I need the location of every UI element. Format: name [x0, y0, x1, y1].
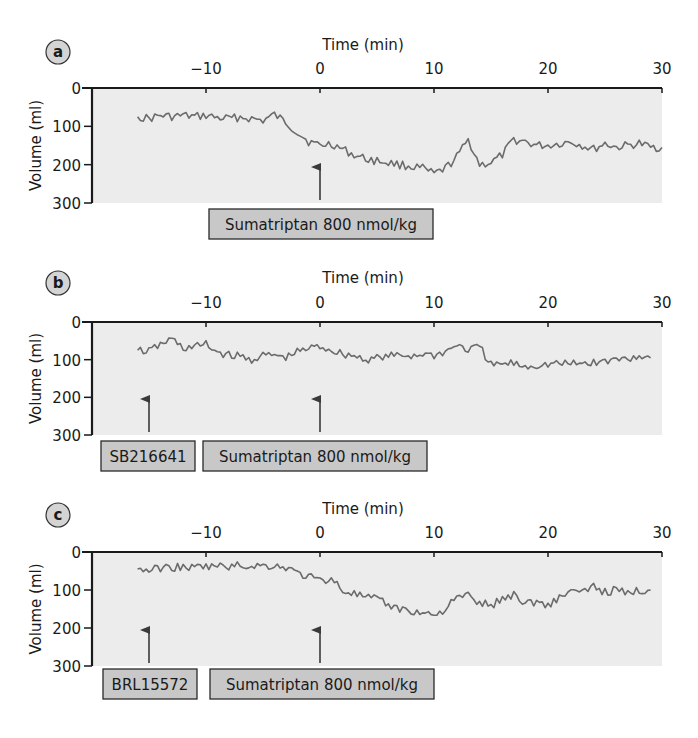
- panel-label: a: [53, 43, 63, 61]
- panel-b: bTime (min)−1001020300100200300Volume (m…: [27, 269, 672, 471]
- y-tick-label: 200: [52, 389, 81, 407]
- x-tick-label: −10: [190, 60, 222, 78]
- y-tick-label: 300: [52, 427, 81, 445]
- panel-label: b: [53, 274, 64, 292]
- y-axis-title: Volume (ml): [27, 563, 45, 654]
- annotation-label: Sumatriptan 800 nmol/kg: [225, 216, 417, 234]
- plot-area: [92, 88, 662, 203]
- figure: aTime (min)−1001020300100200300Volume (m…: [0, 0, 698, 738]
- x-tick-label: 30: [652, 294, 671, 312]
- x-tick-label: 30: [652, 524, 671, 542]
- x-tick-label: 0: [315, 294, 325, 312]
- y-tick-label: 0: [71, 544, 81, 562]
- panel-c: cTime (min)−1001020300100200300Volume (m…: [27, 500, 672, 699]
- x-tick-label: 0: [315, 524, 325, 542]
- panel-label: c: [54, 506, 63, 524]
- y-axis-title: Volume (ml): [27, 100, 45, 191]
- x-tick-label: 20: [538, 524, 557, 542]
- x-tick-label: −10: [190, 524, 222, 542]
- panel-label-badge: b: [46, 271, 70, 295]
- y-tick-label: 0: [71, 80, 81, 98]
- x-tick-label: 10: [424, 60, 443, 78]
- x-axis-title: Time (min): [321, 500, 403, 518]
- x-axis-title: Time (min): [321, 36, 403, 54]
- x-tick-label: −10: [190, 294, 222, 312]
- y-tick-label: 200: [52, 620, 81, 638]
- x-tick-label: 20: [538, 60, 557, 78]
- x-axis-title: Time (min): [321, 269, 403, 287]
- y-tick-label: 200: [52, 157, 81, 175]
- x-tick-label: 20: [538, 294, 557, 312]
- panel-a: aTime (min)−1001020300100200300Volume (m…: [27, 36, 672, 239]
- y-tick-label: 0: [71, 314, 81, 332]
- y-tick-label: 300: [52, 195, 81, 213]
- plot-area: [92, 322, 662, 435]
- annotation-label: SB216641: [109, 448, 186, 466]
- annotation-label: Sumatriptan 800 nmol/kg: [226, 676, 418, 694]
- x-tick-label: 10: [424, 524, 443, 542]
- y-tick-label: 100: [52, 582, 81, 600]
- x-tick-label: 30: [652, 60, 671, 78]
- x-tick-label: 0: [315, 60, 325, 78]
- y-axis-title: Volume (ml): [27, 333, 45, 424]
- panel-label-badge: a: [46, 40, 70, 64]
- y-tick-label: 300: [52, 658, 81, 676]
- annotation-label: Sumatriptan 800 nmol/kg: [219, 448, 411, 466]
- panel-label-badge: c: [46, 503, 70, 527]
- y-tick-label: 100: [52, 118, 81, 136]
- annotation-label: BRL15572: [112, 676, 189, 694]
- plot-area: [92, 552, 662, 666]
- y-tick-label: 100: [52, 352, 81, 370]
- x-tick-label: 10: [424, 294, 443, 312]
